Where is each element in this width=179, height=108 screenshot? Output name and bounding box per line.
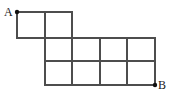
point-b-marker [153,83,157,87]
lattice-path-figure: A B [0,0,179,108]
point-b-label: B [158,79,166,91]
point-a-label: A [4,6,13,18]
grid-diagram [0,0,179,108]
point-a-marker [15,10,19,14]
figure-background [0,0,179,108]
